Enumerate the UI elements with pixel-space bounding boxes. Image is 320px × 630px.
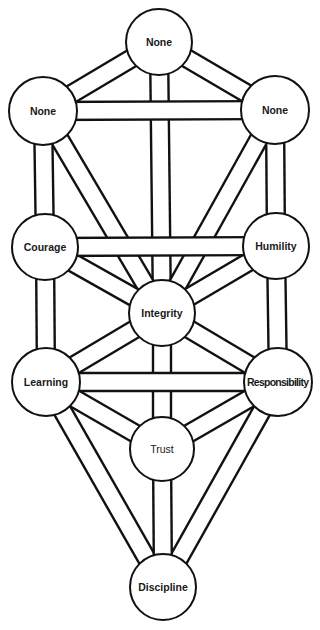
node-label: None [262,104,288,116]
node-label: Integrity [141,307,183,319]
node-integrity: Integrity [129,280,195,346]
node-label: Discipline [138,581,188,593]
node-label: None [30,105,56,117]
node-learning: Learning [12,348,80,416]
path-top-integrity [159,42,162,313]
node-label: None [146,36,172,48]
node-responsibility: Responsibility [244,348,312,416]
tree-diagram: NoneNoneNoneCourageHumilityIntegrityLear… [0,0,320,630]
node-top: None [126,9,192,75]
node-label: Courage [24,241,67,253]
node-label: Responsibility [247,376,309,388]
node-upper_left: None [9,77,77,145]
node-label: Learning [24,376,68,388]
node-discipline: Discipline [130,554,196,620]
node-label: Humility [255,240,297,252]
node-label: Trust [150,443,174,455]
node-upper_right: None [241,76,309,144]
node-humility: Humility [243,213,309,279]
node-courage: Courage [12,214,78,280]
path-courage-humility [45,246,276,247]
node-trust: Trust [130,417,194,481]
